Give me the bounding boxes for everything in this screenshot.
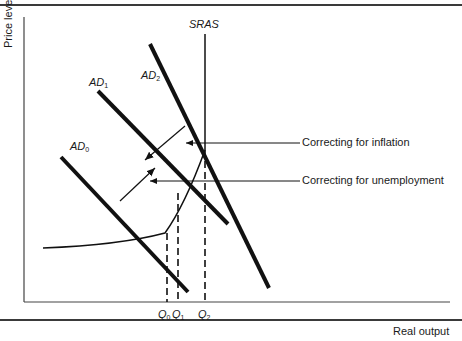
ad1-label-sub: 1 xyxy=(104,82,108,89)
ad2-label-text: AD xyxy=(141,69,156,81)
q1-label: Q1 xyxy=(172,308,184,321)
q2-text: Q xyxy=(198,308,207,320)
ad2-label-sub: 2 xyxy=(156,75,160,82)
ad0-curve xyxy=(61,157,188,292)
ad0-label-text: AD xyxy=(70,140,85,152)
ad0-label: AD0 xyxy=(70,140,89,153)
q1-sub: 1 xyxy=(181,314,185,321)
ad-as-diagram xyxy=(0,0,462,341)
ad1-label: AD1 xyxy=(89,76,108,89)
x-axis-label: Real output xyxy=(393,325,449,337)
y-axis-label: Price level xyxy=(2,0,14,48)
ad1-curve xyxy=(98,91,228,224)
q0-text: Q xyxy=(158,308,167,320)
ad0-label-sub: 0 xyxy=(85,146,89,153)
ad2-curve xyxy=(150,44,269,288)
q1-text: Q xyxy=(172,308,181,320)
sras-label: SRAS xyxy=(189,18,219,30)
q2-label: Q2 xyxy=(198,308,210,321)
q0-sub: 0 xyxy=(167,314,171,321)
ad2-label: AD2 xyxy=(141,69,160,82)
q2-sub: 2 xyxy=(207,314,211,321)
ad1-label-text: AD xyxy=(89,76,104,88)
unemployment-annotation: Correcting for unemployment xyxy=(302,174,444,186)
inflation-annotation: Correcting for inflation xyxy=(302,136,410,148)
q0-label: Q0 xyxy=(158,308,170,321)
unemployment-shift-arrow xyxy=(120,168,155,201)
